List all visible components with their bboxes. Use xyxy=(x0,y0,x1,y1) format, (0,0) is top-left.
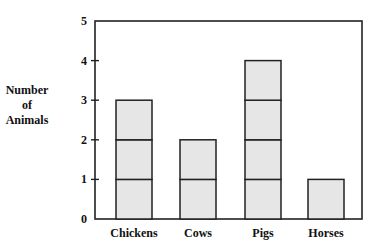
y-tick-label: 2 xyxy=(81,133,87,147)
y-tick-label: 1 xyxy=(81,172,87,186)
bar-unit-chickens xyxy=(116,140,152,180)
y-tick-label: 4 xyxy=(81,54,87,68)
y-tick-label: 0 xyxy=(81,212,87,226)
bar-unit-cows xyxy=(180,140,216,180)
x-tick-label: Pigs xyxy=(252,226,274,240)
y-tick-label: 5 xyxy=(81,14,87,28)
y-axis-label-line: Number xyxy=(6,83,49,97)
y-tick-label: 3 xyxy=(81,93,87,107)
bar-unit-chickens xyxy=(116,179,152,219)
y-axis-label: Number of Animals xyxy=(6,83,49,127)
y-axis-label-line: of xyxy=(22,98,33,112)
bar-unit-pigs xyxy=(245,140,281,180)
bar-unit-pigs xyxy=(245,61,281,101)
bar-chart: Number of Animals 012345ChickensCowsPigs… xyxy=(0,0,378,251)
x-tick-label: Horses xyxy=(308,226,344,240)
bar-unit-cows xyxy=(180,179,216,219)
y-axis-label-line: Animals xyxy=(6,113,49,127)
bar-unit-chickens xyxy=(116,100,152,140)
x-tick-label: Cows xyxy=(184,226,212,240)
x-tick-label: Chickens xyxy=(110,226,158,240)
bar-unit-pigs xyxy=(245,179,281,219)
bar-unit-horses xyxy=(308,179,344,219)
bar-unit-pigs xyxy=(245,100,281,140)
